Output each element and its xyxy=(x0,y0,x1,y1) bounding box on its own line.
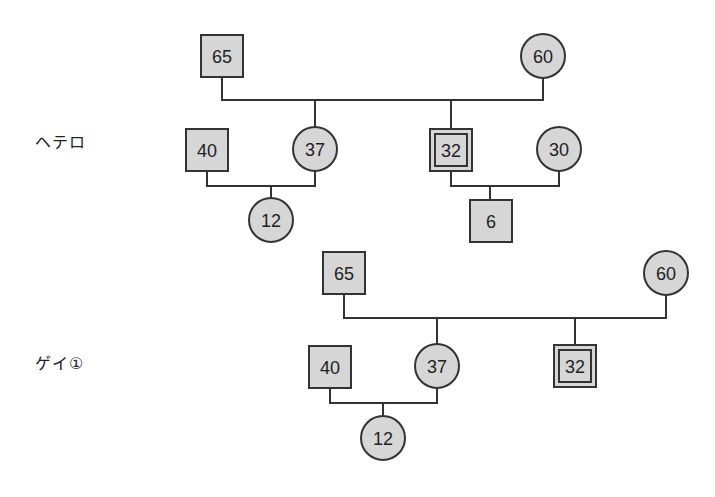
family-tree-diagram: 65 60 40 37 32 30 12 6 65 60 40 xyxy=(0,0,715,497)
node-gay1-grandfather: 65 xyxy=(323,252,365,294)
svg-text:32: 32 xyxy=(565,357,585,377)
node-hetero-grandmother: 60 xyxy=(521,34,565,78)
svg-text:40: 40 xyxy=(320,358,340,378)
svg-text:40: 40 xyxy=(197,141,217,161)
node-gay1-grandmother: 60 xyxy=(644,251,688,295)
node-hetero-grandfather: 65 xyxy=(201,35,243,77)
svg-text:12: 12 xyxy=(261,211,281,231)
svg-text:65: 65 xyxy=(212,47,232,67)
node-hetero-daughter: 37 xyxy=(293,127,337,171)
node-gay1-granddaughter: 12 xyxy=(361,416,405,460)
svg-text:6: 6 xyxy=(486,212,496,232)
svg-text:60: 60 xyxy=(656,264,676,284)
svg-text:32: 32 xyxy=(441,141,461,161)
node-hetero-son-identified: 32 xyxy=(430,129,472,171)
node-hetero-son-wife: 30 xyxy=(537,127,581,171)
node-gay1-daughter: 37 xyxy=(415,344,459,388)
node-hetero-granddaughter: 12 xyxy=(249,198,293,242)
node-hetero-grandson: 6 xyxy=(470,200,512,242)
node-gay1-daughter-husband: 40 xyxy=(309,346,351,388)
svg-text:65: 65 xyxy=(334,264,354,284)
node-hetero-daughter-husband: 40 xyxy=(186,129,228,171)
svg-text:37: 37 xyxy=(427,357,447,377)
svg-text:12: 12 xyxy=(373,429,393,449)
svg-text:60: 60 xyxy=(533,47,553,67)
svg-text:37: 37 xyxy=(305,140,325,160)
svg-text:30: 30 xyxy=(549,140,569,160)
node-gay1-son-identified: 32 xyxy=(554,345,596,387)
